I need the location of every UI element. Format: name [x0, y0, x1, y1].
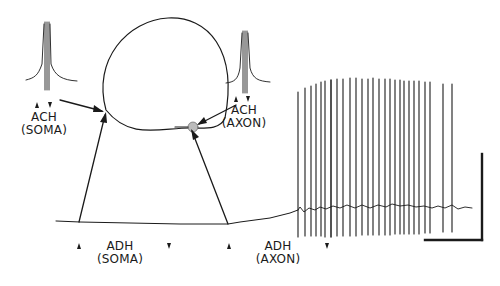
marker-up-ach-soma [35, 102, 39, 108]
soma-outline [103, 18, 228, 130]
label-ach-axon-line2: (AXON) [218, 117, 270, 130]
scale-bar [425, 154, 482, 240]
label-adh-axon-line2: (AXON) [252, 253, 304, 266]
label-adh-soma-line2: (SOMA) [94, 253, 146, 266]
marker-up-adh-axon-start [227, 243, 231, 249]
label-adh-soma: ADH (SOMA) [94, 240, 146, 266]
ach-soma-spike [26, 22, 77, 90]
marker-down-adh-axon-end [325, 243, 329, 249]
neuron-diagram [0, 0, 500, 286]
label-adh-axon: ADH (AXON) [252, 240, 304, 266]
label-ach-soma: ACH (SOMA) [20, 111, 68, 137]
arrow-adh-soma [79, 115, 105, 222]
label-ach-soma-line2: (SOMA) [20, 124, 68, 137]
label-ach-axon: ACH (AXON) [218, 104, 270, 130]
arrow-adh-axon [192, 131, 228, 224]
marker-down-ach-axon [246, 96, 250, 102]
membrane-trace [56, 210, 298, 224]
ach-axon-spike [226, 31, 270, 93]
arrowhead-ach-axon [197, 117, 207, 125]
arrowhead-ach-soma [93, 105, 104, 112]
arrowhead-adh-soma [100, 112, 107, 123]
marker-up-ach-axon [234, 96, 238, 102]
marker-up-adh-soma-start [77, 243, 81, 249]
axon-hillock [175, 122, 198, 132]
spike-train [298, 78, 452, 237]
marker-down-adh-soma-end [167, 243, 171, 249]
marker-down-ach-soma [48, 102, 52, 108]
